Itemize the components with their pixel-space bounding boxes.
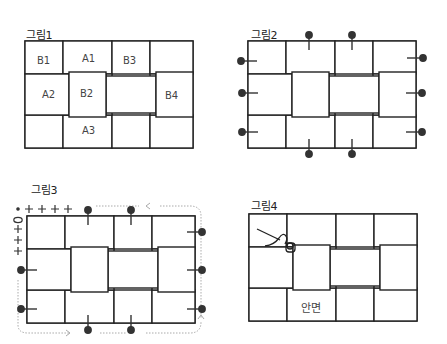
pin-icon — [349, 151, 355, 157]
figure-4-weave-diagram — [249, 214, 417, 321]
pin-icon — [349, 32, 355, 38]
label-a2: A2 — [42, 89, 55, 100]
pin-icon — [199, 229, 205, 235]
label-face-side: 안면 — [301, 302, 321, 315]
pin-icon — [306, 32, 312, 38]
loop-icon — [14, 217, 22, 222]
label-b1: B1 — [37, 55, 50, 66]
pin-icon — [419, 90, 425, 96]
figure-3-weave-diagram — [27, 216, 195, 323]
pin-icon — [18, 306, 24, 312]
label-a3: A3 — [82, 125, 95, 136]
label-b2: B2 — [80, 88, 93, 99]
pin-icon — [239, 129, 245, 135]
pin-icon — [238, 58, 244, 64]
pin-icon — [18, 267, 24, 273]
pin-icon — [85, 207, 91, 213]
label-b4: B4 — [165, 90, 178, 101]
pin-icon — [199, 306, 205, 312]
figure-2-weave-diagram — [248, 41, 416, 148]
pin-icon — [306, 151, 312, 157]
pin-icon — [420, 55, 426, 61]
pin-icon — [419, 129, 425, 135]
label-a1: A1 — [82, 53, 95, 64]
pin-icon — [199, 267, 205, 273]
pin-icon — [85, 327, 91, 333]
pin-icon — [128, 207, 134, 213]
pin-icon — [239, 90, 245, 96]
start-dot-icon — [17, 208, 19, 210]
pin-icon — [128, 327, 134, 333]
label-b3: B3 — [123, 55, 136, 66]
